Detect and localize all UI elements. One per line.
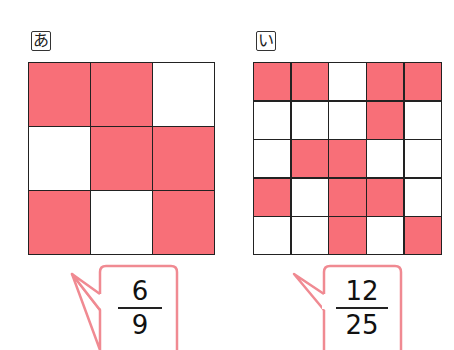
empty-cell xyxy=(329,102,365,139)
shaded-cell xyxy=(29,63,90,126)
fraction-numerator: 6 xyxy=(132,278,149,304)
shaded-cell xyxy=(254,179,290,216)
figure-i-fraction: 12 25 xyxy=(336,278,388,338)
shaded-cell xyxy=(367,179,403,216)
shaded-cell xyxy=(405,63,441,100)
empty-cell xyxy=(329,63,365,100)
shaded-cell xyxy=(405,217,441,254)
shaded-cell xyxy=(367,102,403,139)
empty-cell xyxy=(292,102,328,139)
empty-cell xyxy=(405,179,441,216)
figure-a-fraction: 6 9 xyxy=(118,278,162,338)
shaded-cell xyxy=(292,140,328,177)
fraction-bar xyxy=(118,307,162,309)
empty-cell xyxy=(254,102,290,139)
shaded-cell xyxy=(367,63,403,100)
fraction-denominator: 9 xyxy=(132,312,149,338)
empty-cell xyxy=(292,179,328,216)
shaded-cell xyxy=(329,179,365,216)
figure-i-grid xyxy=(253,62,442,255)
empty-cell xyxy=(254,217,290,254)
empty-cell xyxy=(153,63,214,126)
empty-cell xyxy=(367,217,403,254)
empty-cell xyxy=(254,140,290,177)
empty-cell xyxy=(367,140,403,177)
shaded-cell xyxy=(29,191,90,254)
empty-cell xyxy=(292,217,328,254)
fraction-denominator: 25 xyxy=(345,312,378,338)
empty-cell xyxy=(29,127,90,190)
empty-cell xyxy=(91,191,152,254)
figure-a-label: あ xyxy=(31,31,51,51)
shaded-cell xyxy=(91,63,152,126)
shaded-cell xyxy=(329,217,365,254)
fraction-numerator: 12 xyxy=(345,278,378,304)
figure-i-label: い xyxy=(256,31,276,51)
figure-a-grid xyxy=(28,62,215,255)
empty-cell xyxy=(405,140,441,177)
shaded-cell xyxy=(292,63,328,100)
shaded-cell xyxy=(329,140,365,177)
shaded-cell xyxy=(91,127,152,190)
shaded-cell xyxy=(153,191,214,254)
shaded-cell xyxy=(153,127,214,190)
shaded-cell xyxy=(254,63,290,100)
empty-cell xyxy=(405,102,441,139)
fraction-bar xyxy=(336,307,388,309)
